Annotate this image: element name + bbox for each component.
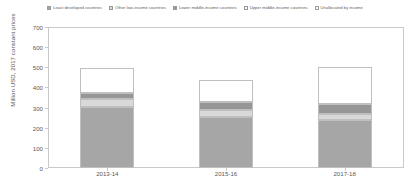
legend-item-label: Upper middle-income countries [250,5,308,11]
bar-group: 2017-18 [285,27,404,168]
x-axis-tick-label: 2017-18 [285,170,404,178]
chart-legend: Least developed countriesOther low-incom… [0,2,410,14]
legend-item-label: Unallocated by income [321,5,363,11]
bar-segment[interactable] [80,68,134,94]
legend-item-label: Other low-income countries [115,5,166,11]
bar-stack[interactable] [318,67,372,168]
y-axis-tick-label: 100 [33,144,43,151]
legend-swatch-icon [109,6,113,10]
legend-item[interactable]: Least developed countries [47,5,102,11]
legend-item-label: Lower middle-income countries [179,5,237,11]
bar-stack[interactable] [199,80,253,168]
bar-segment[interactable] [199,117,253,168]
y-axis-tick-label: 400 [33,84,43,91]
y-axis-tick-label: 200 [33,124,43,131]
bar-segment[interactable] [199,80,253,102]
bar-group: 2015-16 [167,27,286,168]
x-axis-tick-label: 2015-16 [167,170,286,178]
legend-swatch-icon [47,6,51,10]
legend-swatch-icon [244,6,248,10]
bar-segment[interactable] [318,67,372,104]
bars-container: 2013-142015-162017-18 [48,27,404,168]
legend-item[interactable]: Unallocated by income [315,5,363,11]
legend-swatch-icon [315,6,319,10]
legend-item[interactable]: Other low-income countries [109,5,166,11]
bar-segment[interactable] [199,102,253,110]
bar-segment[interactable] [80,99,134,107]
stacked-bar-chart: Least developed countriesOther low-incom… [0,0,410,186]
legend-item[interactable]: Lower middle-income countries [173,5,237,11]
legend-item-label: Least developed countries [53,5,102,11]
bar-segment[interactable] [318,104,372,114]
y-axis: 7006005004003002001000 [0,27,48,168]
y-axis-tick-label: 0 [40,165,43,172]
y-axis-tick-label: 700 [33,24,43,31]
legend-item[interactable]: Upper middle-income countries [244,5,308,11]
y-axis-tick-label: 500 [33,64,43,71]
bar-stack[interactable] [80,68,134,168]
x-axis-tick-label: 2013-14 [48,170,167,178]
bar-group: 2013-14 [48,27,167,168]
y-axis-tick-label: 600 [33,44,43,51]
legend-swatch-icon [173,6,177,10]
bar-segment[interactable] [318,120,372,168]
bar-segment[interactable] [80,107,134,168]
y-axis-tick-mark [45,168,48,169]
y-axis-tick-label: 300 [33,104,43,111]
